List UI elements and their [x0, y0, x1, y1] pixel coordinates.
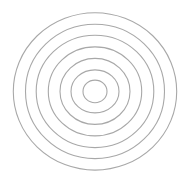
- ring-6: [71, 70, 119, 113]
- ring-4: [48, 47, 141, 136]
- ring-7: [83, 80, 107, 103]
- concentric-circles-diagram: [0, 0, 190, 182]
- concentric-rings-graphic: [0, 0, 190, 182]
- ring-2: [26, 24, 165, 158]
- ring-1: [13, 13, 176, 170]
- ring-3: [36, 35, 154, 147]
